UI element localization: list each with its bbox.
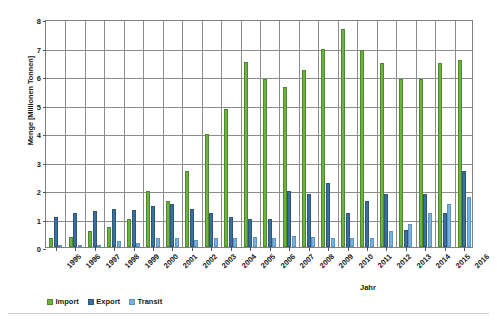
bar-import[interactable] (107, 227, 111, 247)
bar-import[interactable] (380, 63, 384, 247)
bar-transit[interactable] (331, 238, 335, 247)
x-tick-mark (348, 247, 349, 251)
bar-export[interactable] (423, 194, 427, 247)
bar-import[interactable] (127, 219, 131, 248)
legend-item-export[interactable]: Export (88, 297, 120, 306)
x-tick-label: 2012 (395, 252, 413, 270)
bar-transit[interactable] (58, 245, 62, 247)
bar-group (163, 21, 182, 247)
bar-transit[interactable] (447, 204, 451, 247)
bar-group (260, 21, 279, 247)
bar-import[interactable] (88, 231, 92, 247)
bar-export[interactable] (384, 194, 388, 247)
bar-transit[interactable] (408, 224, 412, 247)
bar-export[interactable] (248, 219, 252, 248)
bar-export[interactable] (73, 213, 77, 247)
bar-transit[interactable] (233, 238, 237, 247)
chart-figure: Menge [Millionen Tonnen] 012345678 19951… (0, 0, 497, 320)
x-tick-label: 2013 (415, 252, 433, 270)
bar-transit[interactable] (194, 240, 198, 247)
bar-group (396, 21, 415, 247)
x-tick-label: 2001 (181, 252, 199, 270)
bar-export[interactable] (112, 209, 116, 247)
bar-import[interactable] (185, 171, 189, 247)
legend-item-import[interactable]: Import (47, 297, 79, 306)
bar-export[interactable] (209, 213, 213, 247)
bar-export[interactable] (404, 230, 408, 247)
bar-export[interactable] (326, 183, 330, 247)
bar-group (182, 21, 201, 247)
bar-import[interactable] (321, 49, 325, 247)
chart-legend: Import Export Transit (47, 297, 162, 306)
bar-import[interactable] (283, 87, 287, 247)
bar-import[interactable] (49, 238, 53, 247)
bar-import[interactable] (360, 50, 364, 247)
bar-import[interactable] (205, 134, 209, 247)
bar-export[interactable] (443, 213, 447, 247)
bar-group (85, 21, 104, 247)
bar-import[interactable] (341, 29, 345, 247)
bar-transit[interactable] (272, 238, 276, 247)
bar-transit[interactable] (311, 237, 315, 247)
bar-transit[interactable] (389, 231, 393, 247)
x-tick-mark (406, 247, 407, 251)
legend-swatch-export-icon (88, 299, 94, 305)
bar-transit[interactable] (136, 243, 140, 247)
bar-import[interactable] (458, 60, 462, 247)
bar-export[interactable] (151, 206, 155, 247)
x-tick-label: 2000 (162, 252, 180, 270)
bar-transit[interactable] (214, 238, 218, 247)
bar-import[interactable] (419, 79, 423, 247)
bar-import[interactable] (302, 70, 306, 247)
bar-import[interactable] (244, 62, 248, 247)
bar-transit[interactable] (292, 236, 296, 247)
bar-export[interactable] (190, 209, 194, 247)
bottom-divider (8, 313, 489, 314)
x-tick-label: 2002 (201, 252, 219, 270)
bar-export[interactable] (365, 201, 369, 247)
bar-import[interactable] (69, 237, 73, 247)
bar-export[interactable] (268, 219, 272, 248)
bar-import[interactable] (438, 63, 442, 247)
bar-group (46, 21, 65, 247)
legend-label-import: Import (56, 297, 79, 306)
bar-transit[interactable] (175, 238, 179, 247)
y-tick-label: 5 (37, 102, 41, 111)
bar-export[interactable] (287, 191, 291, 247)
bar-export[interactable] (307, 194, 311, 247)
bar-export[interactable] (54, 217, 58, 247)
bar-group (318, 21, 337, 247)
bar-export[interactable] (462, 171, 466, 247)
bar-transit[interactable] (156, 238, 160, 247)
bar-transit[interactable] (370, 238, 374, 247)
bar-import[interactable] (146, 191, 150, 247)
x-tick-label: 2004 (240, 252, 258, 270)
bar-transit[interactable] (428, 213, 432, 247)
x-tick-mark (172, 247, 173, 251)
x-tick-mark (270, 247, 271, 251)
bar-transit[interactable] (350, 238, 354, 247)
bar-export[interactable] (346, 213, 350, 247)
bar-import[interactable] (224, 109, 228, 247)
bar-import[interactable] (399, 79, 403, 247)
legend-swatch-transit-icon (129, 299, 135, 305)
bar-export[interactable] (229, 217, 233, 247)
x-tick-label: 1999 (142, 252, 160, 270)
bar-import[interactable] (166, 201, 170, 247)
bar-export[interactable] (132, 210, 136, 247)
bar-transit[interactable] (97, 245, 101, 247)
legend-item-transit[interactable]: Transit (129, 297, 162, 306)
bar-export[interactable] (170, 204, 174, 247)
bar-transit[interactable] (78, 245, 82, 247)
bar-transit[interactable] (117, 241, 121, 247)
bar-group (241, 21, 260, 247)
y-tick-label: 0 (37, 245, 41, 254)
bar-import[interactable] (263, 79, 267, 247)
bar-transit[interactable] (467, 197, 471, 247)
x-tick-label: 1998 (123, 252, 141, 270)
x-tick-label: 2009 (337, 252, 355, 270)
legend-swatch-import-icon (47, 299, 53, 305)
bar-transit[interactable] (253, 237, 257, 247)
bar-export[interactable] (93, 211, 97, 247)
x-tick-mark (114, 247, 115, 251)
